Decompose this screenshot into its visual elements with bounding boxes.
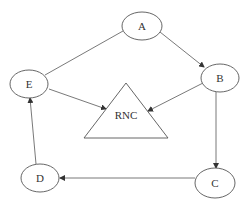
node-d: D <box>21 164 59 192</box>
node-c: C <box>195 168 235 198</box>
edge-e-a <box>45 31 123 75</box>
edge-a-b <box>160 32 204 67</box>
node-c-label: C <box>211 177 218 189</box>
node-rnc-label: RNC <box>115 109 138 121</box>
edge-b-rnc <box>148 83 203 111</box>
node-rnc: RNC <box>84 83 168 138</box>
edge-e-rnc <box>49 89 106 109</box>
node-a-label: A <box>138 20 146 32</box>
node-d-label: D <box>36 172 44 184</box>
node-a: A <box>122 12 162 40</box>
node-b-label: B <box>216 72 223 84</box>
node-b: B <box>201 64 239 92</box>
edge-d-e <box>30 98 36 164</box>
node-e-label: E <box>26 78 33 90</box>
network-diagram: A B C D E RNC <box>0 0 252 201</box>
node-e: E <box>10 70 48 98</box>
